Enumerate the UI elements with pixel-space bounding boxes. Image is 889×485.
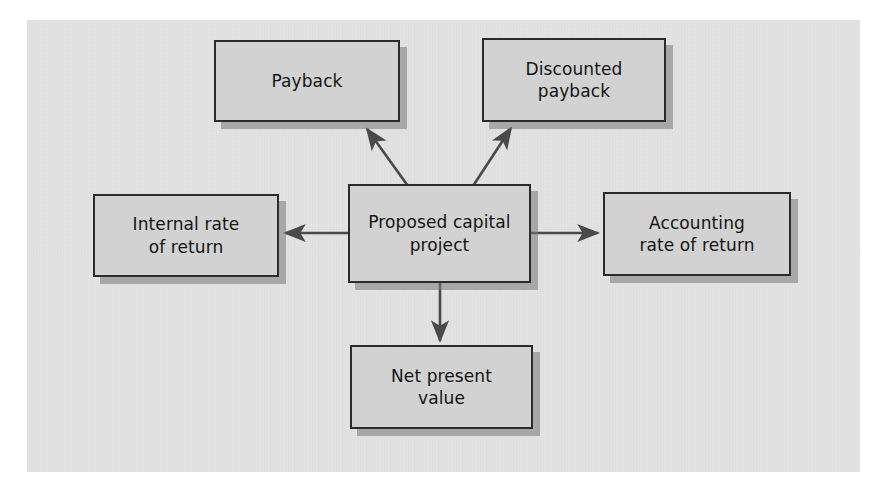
node-discounted-payback-label: Discounted payback: [520, 58, 629, 102]
node-internal-rate-of-return-label: Internal rate of return: [127, 213, 246, 257]
node-proposed-capital-project[interactable]: Proposed capital project: [348, 184, 531, 283]
node-payback[interactable]: Payback: [214, 40, 400, 122]
diagram-page: Payback Discounted payback Internal rate…: [0, 0, 889, 485]
arrow-to-payback: [367, 129, 408, 186]
node-net-present-value-label: Net present value: [385, 365, 498, 409]
node-net-present-value[interactable]: Net present value: [350, 345, 533, 429]
node-proposed-capital-project-label: Proposed capital project: [362, 211, 516, 255]
node-accounting-rate-of-return[interactable]: Accounting rate of return: [603, 192, 791, 276]
node-accounting-rate-of-return-label: Accounting rate of return: [633, 212, 760, 256]
arrow-to-discounted-payback: [473, 128, 511, 186]
node-discounted-payback[interactable]: Discounted payback: [482, 38, 666, 122]
node-internal-rate-of-return[interactable]: Internal rate of return: [93, 194, 279, 277]
node-payback-label: Payback: [265, 70, 348, 92]
